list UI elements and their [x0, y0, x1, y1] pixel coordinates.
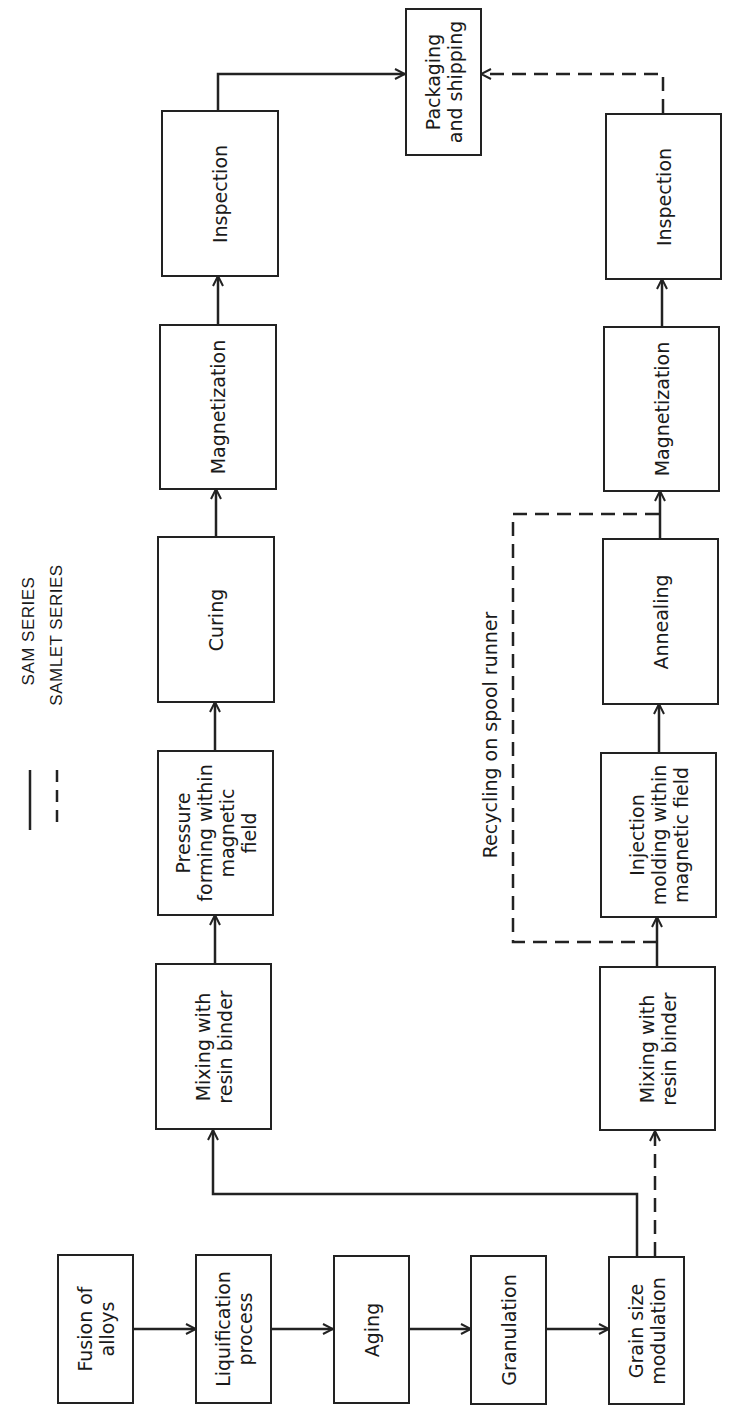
arrow-sam-inspection-to-packaging [218, 74, 405, 110]
box-samlet-mixing-with-resin-binder: Mixing with resin binder [599, 966, 716, 1131]
box-samlet-annealing: Annealing [602, 538, 719, 705]
box-sam-inspection: Inspection [161, 110, 279, 277]
box-sam-curing: Curing [157, 536, 275, 703]
box-grain-size-modulation: Grain size modulation [608, 1256, 685, 1405]
arrow-grain-to-sam-mixing [213, 1130, 637, 1256]
box-fusion-of-alloys: Fusion of alloys [57, 1254, 134, 1404]
box-label: Curing [205, 588, 227, 651]
legend-sam-series: SAM SERIES [19, 577, 39, 686]
box-granulation: Granulation [470, 1255, 547, 1405]
box-sam-pressure-forming: Pressure forming within magnetic field [157, 750, 274, 916]
box-samlet-injection-molding: Injection molding within magnetic field [600, 752, 717, 918]
box-packaging-and-shipping: Packaging and shipping [405, 8, 482, 156]
box-label: Grain size modulation [625, 1277, 669, 1385]
box-label: Mixing with resin binder [192, 990, 236, 1103]
process-flow-diagram: SAM SERIES SAMLET SERIES Recycling on sp… [0, 0, 740, 1428]
box-label: Liquification process [212, 1271, 256, 1387]
box-label: Mixing with resin binder [636, 992, 680, 1105]
legend-samlet-series: SAMLET SERIES [47, 564, 67, 705]
box-sam-magnetization: Magnetization [159, 324, 277, 490]
box-label: Inspection [653, 147, 675, 245]
box-aging: Aging [333, 1255, 410, 1404]
box-label: Magnetization [207, 340, 229, 475]
box-sam-mixing-with-resin-binder: Mixing with resin binder [155, 963, 272, 1130]
box-label: Granulation [498, 1274, 520, 1386]
box-label: Inspection [209, 144, 231, 242]
recycling-annotation: Recycling on spool runner [479, 612, 501, 859]
box-label: Packaging and shipping [422, 21, 466, 144]
box-label: Fusion of alloys [74, 1286, 118, 1371]
box-label: Pressure forming within magnetic field [172, 764, 260, 901]
box-label: Injection molding within magnetic field [626, 765, 692, 906]
box-samlet-inspection: Inspection [605, 113, 722, 280]
box-liquification-process: Liquification process [195, 1254, 272, 1404]
box-samlet-magnetization: Magnetization [603, 326, 720, 492]
arrow-samlet-inspection-to-packaging [481, 74, 663, 113]
box-label: Annealing [650, 574, 672, 669]
box-label: Magnetization [651, 342, 673, 477]
box-label: Aging [361, 1302, 383, 1356]
